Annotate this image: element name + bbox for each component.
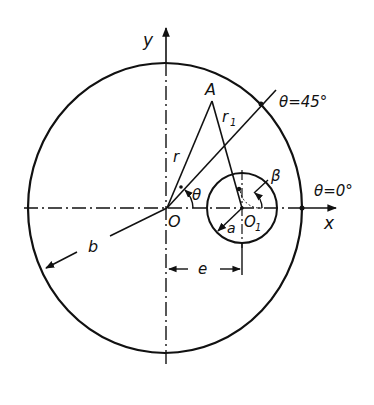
theta-45-label: θ=45° bbox=[279, 93, 327, 111]
beta-leader bbox=[254, 180, 268, 193]
o1-dot bbox=[240, 206, 244, 210]
beta-label: β bbox=[270, 167, 281, 185]
e-label: e bbox=[198, 260, 207, 278]
b-dimension-line-upper bbox=[110, 208, 167, 236]
b-dimension-line-lower bbox=[46, 252, 77, 268]
r1-subscript: 1 bbox=[230, 117, 236, 128]
intersection-0-dot bbox=[300, 206, 305, 211]
y-axis-label: y bbox=[142, 30, 154, 50]
diagram-canvas: y x A O O 1 r r 1 θ β a b e θ=45° θ=0° bbox=[0, 0, 374, 405]
r-label: r bbox=[173, 148, 180, 166]
theta-label: θ bbox=[192, 186, 201, 204]
b-label: b bbox=[88, 237, 98, 256]
x-axis-label: x bbox=[323, 213, 335, 233]
point-on-r1-dot bbox=[237, 187, 241, 191]
r1-label: r bbox=[222, 108, 229, 126]
theta-0-label: θ=0° bbox=[314, 182, 353, 200]
intersection-45-dot bbox=[259, 102, 264, 107]
beta-arc bbox=[255, 193, 262, 208]
r-tick-dot bbox=[179, 185, 183, 189]
point-a-label: A bbox=[204, 80, 216, 99]
origin-label: O bbox=[168, 212, 181, 231]
a-label: a bbox=[227, 220, 236, 236]
o1-subscript: 1 bbox=[255, 222, 261, 233]
